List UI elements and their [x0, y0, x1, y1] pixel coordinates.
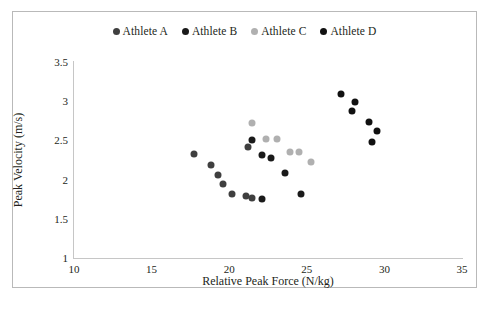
x-axis-tick-label: 35	[457, 263, 468, 275]
x-axis-line	[73, 258, 463, 259]
data-point	[373, 127, 380, 134]
data-point	[229, 191, 236, 198]
y-axis-tick-label: 3.5	[54, 56, 68, 68]
data-point	[215, 171, 222, 178]
data-point	[282, 169, 289, 176]
legend-item-athlete-b[interactable]: Athlete B	[182, 26, 237, 38]
x-axis-tick-label: 30	[379, 263, 390, 275]
y-axis-label: Peak Velocity (m/s)	[11, 113, 26, 207]
data-point	[337, 91, 344, 98]
legend-marker-icon	[182, 28, 189, 35]
y-axis-tick-label: 1.5	[54, 213, 68, 225]
plot-area: 11.522.533.5101520253035	[74, 62, 462, 258]
data-point	[249, 137, 256, 144]
data-point	[249, 120, 256, 127]
x-axis-label: Relative Peak Force (N/kg)	[202, 274, 334, 289]
legend-item-label: Athlete A	[123, 26, 168, 38]
data-point	[351, 98, 358, 105]
data-point	[219, 181, 226, 188]
y-axis-tick-label: 1	[63, 252, 69, 264]
data-point	[258, 152, 265, 159]
data-point	[365, 119, 372, 126]
scatter-plot-figure: Athlete AAthlete BAthlete CAthlete D 11.…	[0, 0, 497, 322]
x-axis-tick-label: 10	[69, 263, 80, 275]
data-point	[297, 190, 304, 197]
y-axis-tick-label: 3	[63, 95, 69, 107]
legend-marker-icon	[113, 28, 120, 35]
legend-marker-icon	[251, 28, 258, 35]
legend-item-athlete-a[interactable]: Athlete A	[113, 26, 168, 38]
chart-legend: Athlete AAthlete BAthlete CAthlete D	[12, 26, 477, 38]
legend-item-label: Athlete C	[261, 26, 306, 38]
data-point	[308, 159, 315, 166]
data-point	[258, 196, 265, 203]
data-point	[274, 135, 281, 142]
legend-item-label: Athlete D	[330, 26, 376, 38]
data-point	[368, 138, 375, 145]
legend-marker-icon	[320, 28, 327, 35]
x-axis-tick-label: 15	[146, 263, 157, 275]
legend-item-athlete-c[interactable]: Athlete C	[251, 26, 306, 38]
legend-item-label: Athlete B	[192, 26, 237, 38]
y-axis-tick-label: 2	[63, 174, 69, 186]
data-point	[207, 162, 214, 169]
legend-item-athlete-d[interactable]: Athlete D	[320, 26, 376, 38]
data-point	[348, 107, 355, 114]
y-axis-tick-label: 2.5	[54, 134, 68, 146]
data-point	[249, 195, 256, 202]
data-point	[268, 155, 275, 162]
data-point	[190, 150, 197, 157]
data-point	[263, 135, 270, 142]
data-point	[296, 149, 303, 156]
data-point	[244, 143, 251, 150]
data-point	[286, 149, 293, 156]
